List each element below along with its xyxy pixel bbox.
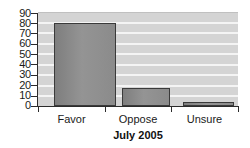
y-axis-tick-30: [31, 75, 38, 76]
plot-area: [38, 13, 238, 106]
x-axis-title: July 2005: [38, 129, 238, 142]
bar-oppose[interactable]: [122, 88, 170, 106]
y-axis-tick-60: [31, 44, 38, 45]
y-axis-tick-50: [31, 54, 38, 55]
x-tick-label-favor: Favor: [38, 113, 105, 126]
x-axis-tick-2: [171, 107, 172, 112]
y-axis-tick-10: [31, 96, 38, 97]
x-axis-tick-1: [105, 107, 106, 112]
y-axis-tick-70: [31, 33, 38, 34]
y-axis-tick-labels: 90 80 70 60 50 40 30 20 10 0: [0, 0, 34, 113]
x-axis-line: [37, 106, 239, 107]
x-axis-tick-0: [38, 107, 39, 112]
bar-chart: 90 80 70 60 50 40 30 20 10 0: [0, 0, 250, 148]
y-axis-tick-40: [31, 64, 38, 65]
y-axis-tick-80: [31, 23, 38, 24]
y-tick-label-0: 0: [0, 100, 31, 111]
x-tick-label-unsure: Unsure: [171, 113, 238, 126]
y-axis-tick-90: [31, 13, 38, 14]
x-axis-tick-3: [238, 107, 239, 112]
y-axis-tick-20: [31, 85, 38, 86]
bar-favor[interactable]: [54, 23, 116, 106]
x-tick-label-oppose: Oppose: [105, 113, 171, 126]
